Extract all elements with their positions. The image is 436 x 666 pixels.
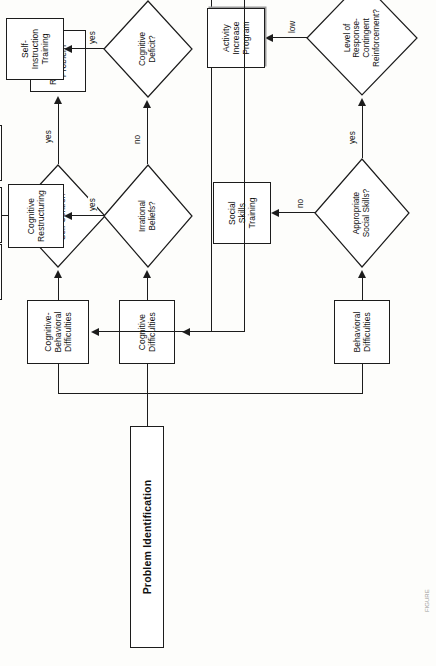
edge-bus-to-cognitive [147, 364, 148, 394]
node-self-evaluation: Self- Evaluation [0, 187, 2, 243]
decision-irrational-beliefs: Irrational Beliefs? [103, 164, 193, 268]
arrow-to-irrational [143, 270, 151, 278]
edge-reinforcement-feedback-up [190, 331, 244, 332]
node-self-instruction-training: Self- Instruction Training [6, 18, 64, 80]
edge-reinforcement-low [267, 37, 307, 38]
edge-label-cogdeficit-yes: yes [88, 30, 97, 45]
node-cognitive-restructuring: Cognitive Restructuring [8, 184, 64, 248]
decision-cognitive-deficit: Cognitive Deficit? [103, 0, 193, 98]
node-label: Activity Increase Program [221, 21, 251, 54]
node-self-monitoring: Self- Monitoring [0, 244, 2, 300]
arrow-socialskills-no [271, 210, 279, 218]
edge-socialskills-no [273, 212, 315, 213]
node-social-skills-training: Social Skills Training [213, 182, 271, 244]
node-label: Social Skills Training [227, 197, 257, 228]
node-problem-identification: Problem Identification [130, 426, 164, 648]
node-label: Cognitive- Behavioral Difficulties [43, 311, 73, 352]
node-activity-increase-program: Activity Increase Program [207, 8, 265, 68]
edge-label-irrational-no: no [133, 134, 142, 145]
edge-beh-to-socialskills [362, 278, 363, 300]
node-label: Problem Identification [141, 480, 153, 595]
edge-label-selfcontrol-yes: yes [44, 129, 53, 144]
diamond-shape [314, 158, 410, 268]
node-label: Self- Instruction Training [20, 29, 50, 69]
edge-label-socialskills-yes: yes [348, 130, 357, 145]
edge-root-out [147, 394, 148, 426]
edge-reinforcement-feedback-h [244, 0, 245, 332]
edge-cb-to-selfcontrol [58, 278, 59, 300]
node-label: Cognitive Difficulties [137, 312, 157, 352]
figure-page: Problem Identification Cognitive- Behavi… [0, 0, 436, 666]
decision-appropriate-social-skills: Appropriate Social Skills? [314, 158, 410, 268]
node-label: Cognitive Restructuring [26, 190, 46, 242]
node-cognitive-behavioral-difficulties: Cognitive- Behavioral Difficulties [27, 300, 89, 364]
arrow-irrational-no [143, 100, 151, 108]
flowchart-canvas: Problem Identification Cognitive- Behavi… [0, 0, 436, 666]
arrow-cogdeficit-yes [64, 46, 72, 54]
diamond-shape [103, 0, 193, 98]
edge-selfcontrol-yes [58, 104, 59, 164]
arrow-socialskills-yes [358, 98, 366, 106]
edge-label-irrational-yes: yes [88, 197, 97, 212]
node-behavioral-difficulties: Behavioral Difficulties [334, 300, 390, 364]
edge-socialskills-yes [362, 106, 363, 158]
arrow-cogdeficit-feedback [91, 329, 99, 337]
arrow-reinforcement-feedback [182, 329, 190, 337]
diamond-shape [306, 0, 418, 96]
arrow-to-selfcontrol [54, 270, 62, 278]
arrow-selfcontrol-yes [54, 96, 62, 104]
edge-root-bus [58, 393, 363, 394]
edge-label-reinforcement-low: low [288, 20, 297, 34]
edge-bus-to-behavioral [362, 364, 363, 394]
arrow-reinforcement-low [265, 35, 273, 43]
arrow-irrational-yes [64, 213, 72, 221]
edge-irrational-no [147, 108, 148, 164]
figure-caption: FIGURE [424, 589, 430, 612]
edge-bus-to-cognitive-behavioral [58, 364, 59, 394]
node-cognitive-difficulties: Cognitive Difficulties [119, 300, 175, 364]
edge-label-socialskills-no: no [296, 198, 305, 209]
decision-level-of-reinforcement: Level of Response- Contingent Reinforcem… [306, 0, 418, 96]
node-label: Behavioral Difficulties [352, 311, 372, 352]
node-self-reinforcement: Self Reinforcement [0, 125, 2, 181]
diamond-shape [103, 164, 193, 268]
arrow-to-socialskills [358, 270, 366, 278]
edge-cog-to-irrational [147, 278, 148, 300]
